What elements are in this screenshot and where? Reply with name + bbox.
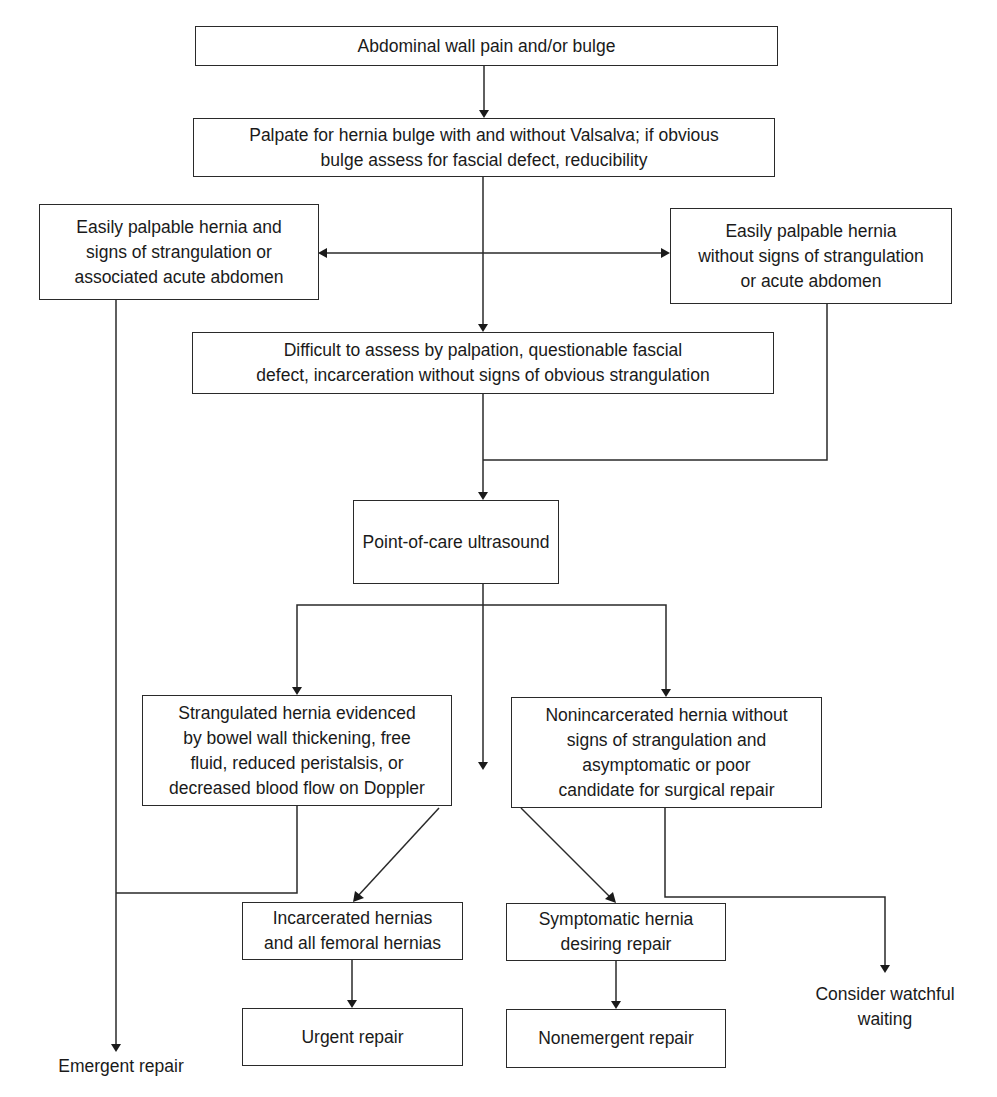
arrowhead-icon [478, 324, 488, 332]
connector-strangulated-incarcerated [357, 808, 439, 897]
arrowhead-icon [880, 965, 890, 973]
connector-pocus-branches [297, 605, 666, 691]
arrowhead-icon [479, 110, 489, 118]
hernia-flowchart: Abdominal wall pain and/or bulge Palpate… [0, 0, 997, 1097]
node-incarcerated-label: Incarcerated hernias and all femoral her… [264, 906, 441, 956]
node-palpate: Palpate for hernia bulge with and withou… [193, 118, 775, 177]
connector-nonincarcerated-symptomatic [521, 808, 611, 898]
arrowhead-icon [661, 248, 670, 258]
node-difficult-label: Difficult to assess by palpation, questi… [256, 338, 709, 388]
node-palpable-no-strangulation: Easily palpable hernia without signs of … [670, 208, 952, 304]
node-palpable-strangulation: Easily palpable hernia and signs of stra… [39, 204, 319, 300]
arrowhead-icon [292, 687, 302, 695]
node-urgent-label: Urgent repair [301, 1025, 403, 1050]
arrowhead-icon [661, 689, 671, 697]
terminal-emergent-label: Emergent repair [36, 1054, 206, 1079]
node-incarcerated: Incarcerated hernias and all femoral her… [242, 902, 463, 960]
arrowhead-icon [478, 762, 488, 770]
node-pocus: Point-of-care ultrasound [353, 500, 559, 584]
node-palpable-no-strangulation-label: Easily palpable hernia without signs of … [698, 219, 924, 294]
node-difficult: Difficult to assess by palpation, questi… [192, 332, 774, 394]
connector-strangulated-emergent [116, 805, 297, 893]
arrowhead-icon [318, 248, 327, 258]
node-symptomatic-label: Symptomatic hernia desiring repair [539, 907, 694, 957]
node-pocus-label: Point-of-care ultrasound [363, 530, 550, 555]
arrowhead-icon [611, 1001, 621, 1009]
node-strangulated: Strangulated hernia evidenced by bowel w… [142, 695, 452, 806]
node-symptomatic: Symptomatic hernia desiring repair [506, 903, 726, 961]
node-start-label: Abdominal wall pain and/or bulge [358, 34, 616, 59]
arrowhead-icon [347, 1000, 357, 1008]
node-palpate-label: Palpate for hernia bulge with and withou… [249, 123, 719, 173]
node-nonemergent: Nonemergent repair [506, 1009, 726, 1068]
node-nonemergent-label: Nonemergent repair [538, 1026, 694, 1051]
terminal-watchful: Consider watchful waiting [790, 982, 980, 1032]
arrowhead-icon [353, 891, 364, 902]
terminal-watchful-label: Consider watchful waiting [790, 982, 980, 1032]
node-urgent: Urgent repair [242, 1008, 463, 1066]
node-start: Abdominal wall pain and/or bulge [195, 26, 778, 66]
node-strangulated-label: Strangulated hernia evidenced by bowel w… [169, 701, 425, 801]
node-nonincarcerated-label: Nonincarcerated hernia without signs of … [545, 703, 787, 803]
node-nonincarcerated: Nonincarcerated hernia without signs of … [511, 697, 822, 808]
arrowhead-icon [478, 492, 488, 500]
node-palpable-strangulation-label: Easily palpable hernia and signs of stra… [74, 215, 283, 290]
terminal-emergent: Emergent repair [36, 1054, 206, 1079]
arrowhead-icon [111, 1044, 121, 1052]
